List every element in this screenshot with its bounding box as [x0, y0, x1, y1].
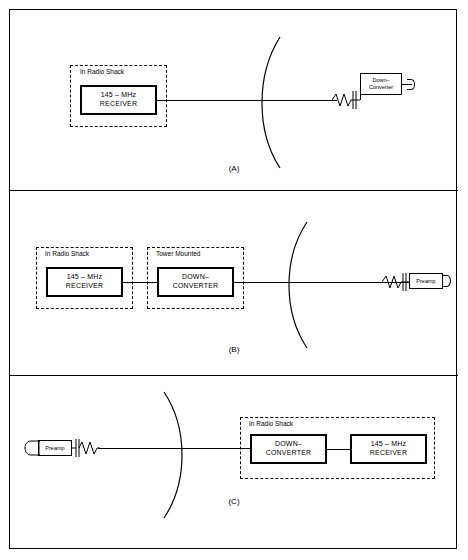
panel-c-radio-shack-label: In Radio Shack: [247, 420, 295, 427]
panel-a-downconverter-line2: Converter: [369, 84, 393, 91]
panel-a-downconverter-box: Down– Converter: [360, 73, 402, 95]
panel-a-receiver-line1: 145 – MHz: [101, 91, 137, 100]
panel-a-caption: (A): [0, 164, 468, 173]
panel-a: In Radio Shack 145 – MHz RECEIVER Down– …: [0, 0, 468, 190]
panel-b-downconverter-box: DOWN– CONVERTER: [157, 267, 234, 297]
panel-a-receiver-line2: RECEIVER: [100, 100, 137, 109]
panel-b-dish-reflector: [275, 220, 325, 350]
panel-a-radio-shack-label: In Radio Shack: [78, 68, 126, 75]
panel-a-downconverter-line1: Down–: [372, 77, 389, 84]
panel-c-if-cable: [327, 449, 350, 450]
panel-b-preamp-terminal-icon: [443, 275, 451, 287]
panel-b-downconverter-line1: DOWN–: [182, 273, 209, 282]
panel-c-caption: (C): [0, 497, 468, 506]
panel-c-receiver-line2: RECEIVER: [370, 449, 407, 458]
panel-c-downconverter-line1: DOWN–: [275, 440, 302, 449]
panel-c-receiver-line1: 145 – MHz: [371, 440, 407, 449]
panel-b-feed-antenna-icon: [382, 271, 410, 295]
panel-b: In Radio Shack 145 – MHz RECEIVER Tower …: [0, 190, 468, 375]
panel-b-preamp-label: Preamp: [416, 278, 435, 285]
panel-b-receiver-box: 145 – MHz RECEIVER: [46, 267, 123, 297]
panel-a-coax-line: [157, 100, 337, 101]
panel-c-preamp-label: Preamp: [45, 445, 64, 452]
panel-b-preamp-box: Preamp: [409, 273, 443, 289]
panel-b-receiver-line2: RECEIVER: [66, 282, 103, 291]
panel-b-caption: (B): [0, 345, 468, 354]
panel-c-feed-antenna-icon: [72, 437, 100, 461]
panel-b-if-cable: [123, 282, 157, 283]
panel-c-preamp-terminal-icon: [22, 440, 40, 456]
figure-page: In Radio Shack 145 – MHz RECEIVER Down– …: [0, 0, 468, 560]
panel-a-receiver-box: 145 – MHz RECEIVER: [80, 85, 157, 115]
panel-c-downconverter-box: DOWN– CONVERTER: [250, 434, 327, 464]
panel-b-receiver-line1: 145 – MHz: [67, 273, 103, 282]
panel-b-radio-shack-label: In Radio Shack: [43, 250, 91, 257]
panel-b-tower-mounted-label: Tower Mounted: [154, 250, 202, 257]
panel-a-dish-reflector: [250, 35, 300, 170]
panel-a-feed-antenna-icon: [332, 88, 360, 112]
panel-c-receiver-box: 145 – MHz RECEIVER: [350, 434, 427, 464]
panel-c-preamp-box: Preamp: [38, 440, 72, 456]
panel-b-downconverter-line2: CONVERTER: [173, 282, 219, 291]
panel-c-downconverter-line2: CONVERTER: [266, 449, 312, 458]
panel-c: Preamp In Radio Shack DOWN– CONVERTER: [0, 375, 468, 560]
panel-a-downconverter-drop: [360, 95, 361, 100]
panel-a-downconverter-terminal-icon: [407, 79, 415, 90]
